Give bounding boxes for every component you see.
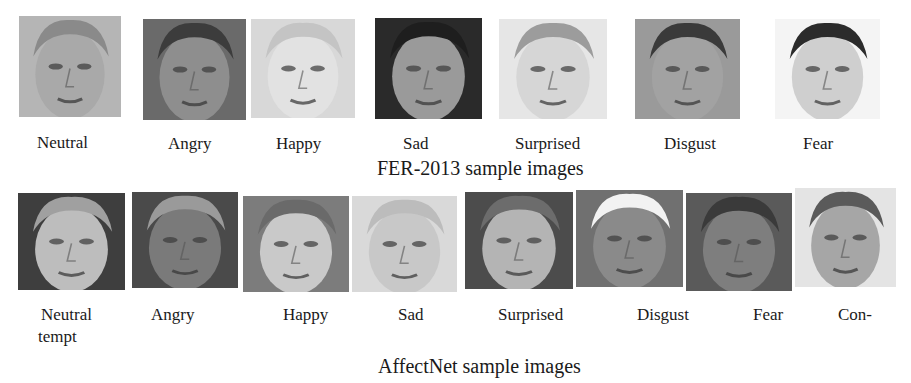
affectnet-disgust-image [576, 190, 683, 287]
affectnet-angry-image [132, 192, 238, 288]
affectnet-contempt-label: Con- [838, 306, 872, 323]
fer-surprised-image [499, 19, 607, 119]
affectnet-disgust-label: Disgust [637, 306, 689, 323]
fer-neutral-label: Neutral [37, 134, 88, 151]
fer-happy-image [251, 19, 355, 118]
affectnet-surprised-label: Surprised [498, 306, 563, 323]
affectnet-caption: AffectNet sample images [378, 356, 581, 376]
affectnet-happy-label: Happy [283, 306, 328, 323]
fer-happy-label: Happy [276, 135, 321, 152]
affectnet-neutral-image [18, 193, 125, 290]
affectnet-sad-image [352, 196, 457, 292]
affectnet-happy-image [243, 196, 349, 292]
affectnet-fear-image [686, 193, 792, 291]
fer-angry-label: Angry [168, 135, 211, 152]
fer-surprised-label: Surprised [515, 135, 580, 152]
fer-disgust-image [635, 19, 740, 119]
affectnet-sad-label: Sad [398, 306, 424, 323]
affectnet-contempt-image [795, 188, 896, 287]
affectnet-surprised-image [465, 192, 573, 289]
fer-neutral-image [19, 16, 121, 117]
fer-sad-image [375, 18, 482, 119]
affectnet-contempt-label-overflow: tempt [38, 328, 77, 345]
fer-angry-image [143, 19, 246, 120]
affectnet-neutral-label: Neutral [41, 306, 92, 323]
fer-fear-image [775, 19, 880, 119]
fer-fear-label: Fear [803, 135, 833, 152]
fer-sad-label: Sad [403, 135, 429, 152]
affectnet-fear-label: Fear [753, 306, 783, 323]
fer2013-caption: FER-2013 sample images [377, 158, 584, 178]
fer-disgust-label: Disgust [664, 135, 716, 152]
affectnet-angry-label: Angry [151, 306, 194, 323]
